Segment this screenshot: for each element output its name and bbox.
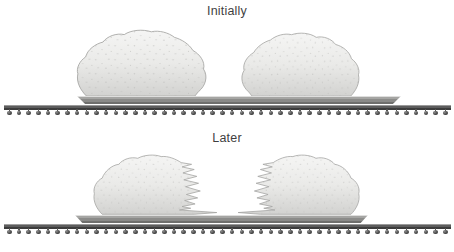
oven-rack-bottom: [4, 224, 451, 234]
rack-ball: [36, 230, 41, 235]
rack-ball: [443, 230, 448, 235]
rack-ball: [152, 230, 157, 235]
rack-ball: [424, 230, 429, 235]
rack-ball: [375, 230, 380, 235]
rack-ball: [404, 230, 409, 235]
rack-ball: [395, 111, 400, 116]
rack-ball: [191, 111, 196, 116]
rack-ball: [307, 230, 312, 235]
rack-ball: [414, 230, 419, 235]
rack-ball: [259, 111, 264, 116]
rack-ball: [307, 111, 312, 116]
rack-ball: [172, 230, 177, 235]
rack-ball: [346, 111, 351, 116]
rack-ball: [298, 111, 303, 116]
rack-ball: [424, 111, 429, 116]
rack-ball: [17, 230, 22, 235]
rack-ball: [288, 230, 293, 235]
rack-ball: [210, 111, 215, 116]
rack-ball: [55, 111, 60, 116]
rack-ball: [288, 111, 293, 116]
rack-ball: [133, 230, 138, 235]
rack-ball: [327, 111, 332, 116]
rack-ball: [26, 230, 31, 235]
rack-ball: [75, 111, 80, 116]
rack-ball: [443, 111, 448, 116]
rack-ball: [365, 111, 370, 116]
rack-ball: [46, 230, 51, 235]
rack-ball: [317, 230, 322, 235]
rack-ball: [278, 230, 283, 235]
rack-ball: [7, 230, 12, 235]
rack-ball: [114, 111, 119, 116]
rack-ball: [133, 111, 138, 116]
rack-ball: [404, 111, 409, 116]
rack-ball: [123, 230, 128, 235]
rack-ball: [375, 111, 380, 116]
rack-ball: [414, 111, 419, 116]
rack-ball: [191, 230, 196, 235]
rack-ball: [385, 111, 390, 116]
oven-rack-top: [4, 105, 451, 115]
rack-ball: [26, 111, 31, 116]
rack-ball: [55, 230, 60, 235]
rack-ball: [75, 230, 80, 235]
rack-ball: [240, 111, 245, 116]
rack-ball: [104, 111, 109, 116]
rack-ball: [36, 111, 41, 116]
rack-ball: [336, 111, 341, 116]
dough-lump-later-right: [233, 154, 363, 216]
rack-ball: [395, 230, 400, 235]
rack-ball: [356, 230, 361, 235]
rack-ball: [269, 111, 274, 116]
rack-ball: [162, 230, 167, 235]
rack-ball: [143, 111, 148, 116]
rack-ball: [269, 230, 274, 235]
rack-ball: [201, 111, 206, 116]
rack-ball: [433, 111, 438, 116]
rack-ball: [249, 230, 254, 235]
rack-ball: [230, 230, 235, 235]
dough-lump-initial-left: [74, 29, 219, 98]
rack-ball: [7, 111, 12, 116]
rack-ball: [327, 230, 332, 235]
panel-title-later: Later: [0, 131, 454, 145]
rack-ball: [65, 111, 70, 116]
rack-ball: [346, 230, 351, 235]
rack-ball: [94, 230, 99, 235]
rack-ball: [336, 230, 341, 235]
rack-ball: [220, 111, 225, 116]
rack-ball: [114, 230, 119, 235]
rack-ball: [162, 111, 167, 116]
figure-canvas: Initially Later: [0, 0, 454, 252]
rack-ball: [385, 230, 390, 235]
rack-ball: [356, 111, 361, 116]
rack-ball: [230, 111, 235, 116]
rack-ball: [240, 230, 245, 235]
rack-ball: [94, 111, 99, 116]
rack-ball: [365, 230, 370, 235]
rack-ball: [249, 111, 254, 116]
rack-ball: [152, 111, 157, 116]
rack-balls: [7, 110, 448, 116]
rack-ball: [210, 230, 215, 235]
rack-ball: [181, 111, 186, 116]
rack-ball: [172, 111, 177, 116]
baking-sheet-top: [77, 96, 401, 104]
rack-ball: [298, 230, 303, 235]
rack-ball: [65, 230, 70, 235]
rack-balls: [7, 229, 448, 235]
baking-sheet-bottom: [75, 215, 368, 223]
rack-ball: [104, 230, 109, 235]
rack-ball: [123, 111, 128, 116]
rack-ball: [201, 230, 206, 235]
rack-ball: [220, 230, 225, 235]
rack-ball: [433, 230, 438, 235]
panel-title-initially: Initially: [0, 4, 454, 18]
rack-ball: [85, 230, 90, 235]
rack-ball: [278, 111, 283, 116]
rack-ball: [317, 111, 322, 116]
rack-ball: [46, 111, 51, 116]
rack-ball: [85, 111, 90, 116]
dough-lump-later-left: [90, 154, 222, 216]
